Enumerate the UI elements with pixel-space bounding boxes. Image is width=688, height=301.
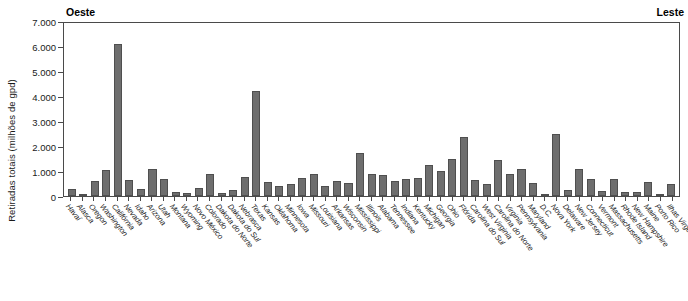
bar-slot (181, 23, 193, 196)
bar-slot (596, 23, 608, 196)
bar (321, 186, 329, 197)
x-label-slot: Pennsylvania (516, 201, 528, 301)
bar (102, 170, 110, 196)
bar-slot (320, 23, 332, 196)
bar-slot (377, 23, 389, 196)
bar-slot (389, 23, 401, 196)
x-label-slot: Arizona (146, 201, 158, 301)
x-label-slot: Carolina do Sul (470, 201, 482, 301)
bar (448, 159, 456, 196)
y-axis-tick-label: 3.000 (4, 117, 56, 128)
x-label-slot: Montana (169, 201, 181, 301)
east-corner-label: Leste (657, 6, 684, 18)
x-label-slot: Novo México (192, 201, 204, 301)
bar-slot (331, 23, 343, 196)
y-axis-tick-label: 7.000 (4, 17, 56, 28)
bar-slot (297, 23, 309, 196)
bar (229, 190, 237, 196)
bar (241, 177, 249, 197)
x-label-slot: Connecticut (585, 201, 597, 301)
bar-slot (562, 23, 574, 196)
bar-slot (354, 23, 366, 196)
bar-slot (470, 23, 482, 196)
bar-slot (643, 23, 655, 196)
y-axis-tick-label: 0 (4, 192, 56, 203)
bar-slot (585, 23, 597, 196)
x-label-slot: Nova York (551, 201, 563, 301)
bar (125, 180, 133, 196)
x-label-slot: Kentucky (412, 201, 424, 301)
bar (517, 169, 525, 196)
bar-slot (412, 23, 424, 196)
bar-slot (193, 23, 205, 196)
bar-slot (239, 23, 251, 196)
bar (333, 181, 341, 197)
chart-figure: Retiradas totais (milhões de gpd) Oeste … (0, 0, 688, 301)
bar (425, 165, 433, 196)
bar (460, 137, 468, 197)
x-label-slot: Georgia (435, 201, 447, 301)
bar (160, 179, 168, 197)
bar (644, 182, 652, 196)
bar (391, 181, 399, 197)
bar (275, 186, 283, 196)
bar-slot (251, 23, 263, 196)
bar-slot (158, 23, 170, 196)
x-label-slot: New Hampshire (632, 201, 644, 301)
bar-slot (308, 23, 320, 196)
bar (506, 174, 514, 197)
bar (264, 182, 272, 197)
bar (91, 181, 99, 196)
west-corner-label: Oeste (66, 6, 95, 18)
y-axis-tick-label: 2.000 (4, 142, 56, 153)
bar (344, 183, 352, 196)
x-label-slot: Kansas (262, 201, 274, 301)
x-label-slot: Dakota do Sul (227, 201, 239, 301)
bar-slot (423, 23, 435, 196)
bar-slot (366, 23, 378, 196)
x-label-slot: D.C. (539, 201, 551, 301)
bar (621, 192, 629, 196)
bar (287, 184, 295, 196)
x-label-slot: Alasca (77, 201, 89, 301)
x-label-slot: Flórida (458, 201, 470, 301)
bar-slot (400, 23, 412, 196)
bar-slot (216, 23, 228, 196)
x-label-slot: Carolina do Norte (493, 201, 505, 301)
bar-slot (631, 23, 643, 196)
x-label-slot: Tennessee (389, 201, 401, 301)
bar-slot (504, 23, 516, 196)
bar-slot (435, 23, 447, 196)
x-label-slot: Nebrasca (238, 201, 250, 301)
bar (402, 179, 410, 197)
bar (633, 192, 641, 196)
bar-series (64, 23, 679, 196)
y-axis-tick-label: 1.000 (4, 167, 56, 178)
x-label-slot: Porto Rico (655, 201, 667, 301)
x-label-slot: Mississippi (354, 201, 366, 301)
x-label-slot: Delaware (562, 201, 574, 301)
bar-slot (124, 23, 136, 196)
x-label-slot: Ohio (447, 201, 459, 301)
bar (183, 193, 191, 196)
x-label-slot: Rhode Island (620, 201, 632, 301)
bar (148, 169, 156, 196)
plot-area (63, 22, 680, 197)
x-label-slot: Iowa (296, 201, 308, 301)
x-label-slot: Maine (643, 201, 655, 301)
bar (195, 188, 203, 196)
y-axis-tick-label: 6.000 (4, 42, 56, 53)
bar (529, 183, 537, 196)
bar-slot (89, 23, 101, 196)
bar-slot (343, 23, 355, 196)
bar-slot (608, 23, 620, 196)
bar-slot (101, 23, 113, 196)
bar (172, 192, 180, 196)
bar-slot (458, 23, 470, 196)
bar-slot (147, 23, 159, 196)
bar (356, 153, 364, 196)
x-label-slot: Arkansas (331, 201, 343, 301)
x-label-slot: Virginia (504, 201, 516, 301)
x-label-slot: Utah (158, 201, 170, 301)
bar (610, 179, 618, 196)
